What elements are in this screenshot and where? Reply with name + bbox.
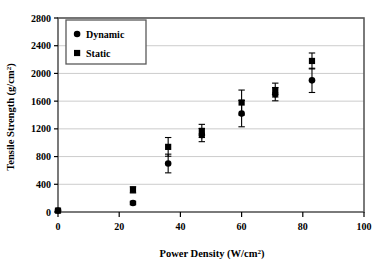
- y-tick-label: 2400: [31, 40, 51, 51]
- y-tick-label: 2800: [31, 13, 51, 24]
- data-point-square: [55, 208, 61, 214]
- data-point-square: [199, 128, 205, 134]
- legend-marker-square: [74, 50, 80, 56]
- scatter-plot: 040080012001600200024002800 020406080100…: [0, 0, 386, 264]
- data-point-square: [272, 87, 278, 93]
- x-axis-title: Power Density (W/cm2): [160, 248, 265, 260]
- y-tick-label: 0: [46, 207, 51, 218]
- y-axis-tick-labels: 040080012001600200024002800: [31, 13, 51, 218]
- x-tick-label: 80: [298, 221, 308, 232]
- y-tick-label: 1200: [31, 123, 51, 134]
- legend-marker-circle: [74, 31, 81, 38]
- x-tick-label: 40: [175, 221, 185, 232]
- legend-label-dynamic: Dynamic: [86, 29, 125, 40]
- data-point-square: [309, 58, 315, 64]
- legend: DynamicStatic: [66, 20, 146, 64]
- y-axis-title: Tensile Strength (g/cm2): [5, 63, 17, 171]
- x-tick-label: 0: [56, 221, 61, 232]
- y-tick-label: 800: [36, 151, 51, 162]
- data-series-group: [55, 53, 316, 214]
- x-tick-label: 60: [237, 221, 247, 232]
- x-tick-label: 20: [114, 221, 124, 232]
- series-static: [55, 53, 315, 214]
- data-point-circle: [130, 200, 137, 207]
- chart-figure: 040080012001600200024002800 020406080100…: [0, 0, 386, 264]
- legend-label-static: Static: [86, 48, 111, 59]
- x-axis-tick-labels: 020406080100: [56, 221, 372, 232]
- data-point-circle: [309, 77, 316, 84]
- data-point-square: [165, 144, 171, 150]
- data-point-square: [130, 187, 136, 193]
- x-tick-label: 100: [357, 221, 372, 232]
- y-tick-label: 1600: [31, 96, 51, 107]
- y-tick-label: 400: [36, 179, 51, 190]
- data-point-square: [239, 99, 245, 105]
- y-tick-label: 2000: [31, 68, 51, 79]
- data-point-circle: [165, 160, 172, 167]
